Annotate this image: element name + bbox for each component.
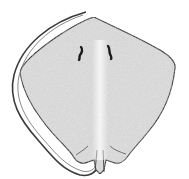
ray-body: [20, 17, 175, 174]
skate-illustration: [0, 0, 189, 179]
